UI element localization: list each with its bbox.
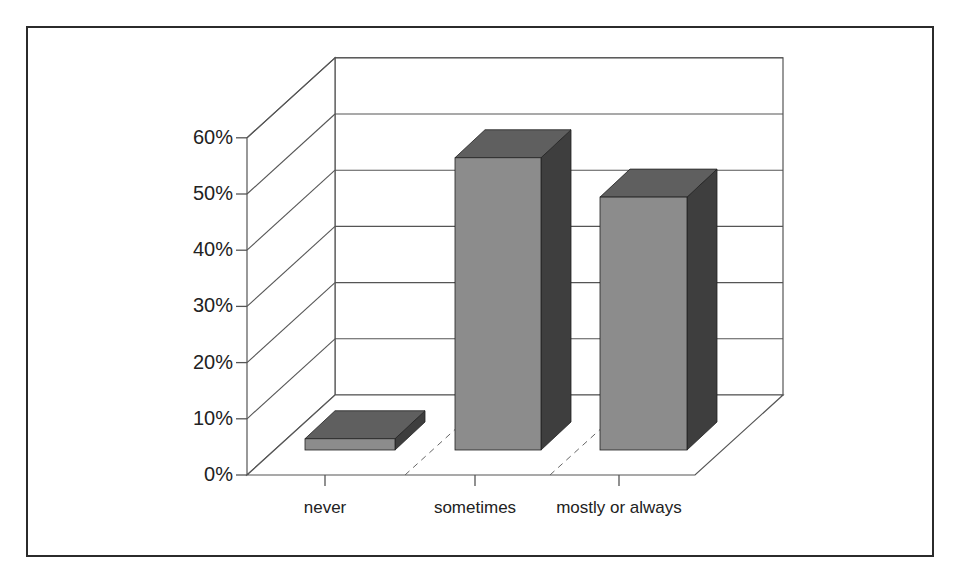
y-tick-label: 30% bbox=[163, 294, 233, 317]
bar-sometimes bbox=[455, 130, 571, 450]
y-tick-label: 50% bbox=[163, 182, 233, 205]
y-tick-label: 10% bbox=[163, 407, 233, 430]
x-tick-label: mostly or always bbox=[519, 498, 719, 518]
y-tick-label: 20% bbox=[163, 351, 233, 374]
y-tick-label: 0% bbox=[163, 463, 233, 486]
bar-mostly-or-always bbox=[600, 169, 717, 450]
y-tick-label: 60% bbox=[163, 126, 233, 149]
chart-plot bbox=[0, 0, 957, 582]
y-tick-label: 40% bbox=[163, 238, 233, 261]
